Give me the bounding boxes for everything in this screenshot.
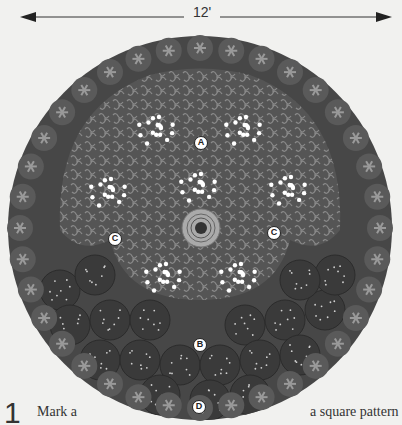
border-flower: [364, 246, 390, 272]
border-flower: [125, 46, 151, 72]
border-flower: [364, 184, 390, 210]
garden-circle: [7, 35, 393, 421]
border-flower: [356, 153, 382, 179]
shrub-mound: [240, 340, 280, 380]
border-flower: [7, 215, 33, 241]
shrub-mound: [280, 260, 320, 300]
border-flower: [97, 371, 123, 397]
border-flower: [49, 331, 75, 357]
step-number: 1: [4, 398, 21, 425]
shrub-mound: [75, 255, 115, 295]
garden-plan: [0, 0, 402, 425]
border-flower: [325, 99, 351, 125]
border-flower: [303, 77, 329, 103]
border-flower: [249, 384, 275, 410]
marker-c-right: C: [267, 226, 281, 240]
shrub-mound: [315, 255, 355, 295]
border-flower: [10, 184, 36, 210]
border-flower: [277, 371, 303, 397]
center-fountain: [182, 209, 220, 247]
border-flower: [49, 99, 75, 125]
marker-c-left: C: [108, 232, 122, 246]
border-flower: [325, 331, 351, 357]
border-flower: [97, 59, 123, 85]
border-flower: [277, 59, 303, 85]
border-flower: [71, 77, 97, 103]
border-flower: [18, 277, 44, 303]
border-flower: [125, 384, 151, 410]
step-text-left: Mark a: [37, 404, 77, 420]
marker-b: B: [193, 338, 207, 352]
marker-d: D: [192, 400, 206, 414]
border-flower: [218, 392, 244, 418]
border-flower: [18, 153, 44, 179]
border-flower: [367, 215, 393, 241]
border-flower: [31, 125, 57, 151]
step-text-right: a square pattern: [310, 404, 399, 420]
border-flower: [303, 353, 329, 379]
border-flower: [31, 305, 57, 331]
shrub-mound: [130, 300, 170, 340]
border-flower: [249, 46, 275, 72]
marker-a: A: [194, 136, 208, 150]
border-flower: [187, 35, 213, 61]
border-flower: [356, 277, 382, 303]
border-flower: [10, 246, 36, 272]
border-flower: [71, 353, 97, 379]
border-flower: [156, 392, 182, 418]
shrub-mound: [90, 300, 130, 340]
border-flower: [156, 38, 182, 64]
border-flower: [343, 305, 369, 331]
border-flower: [218, 38, 244, 64]
shrub-mound: [120, 340, 160, 380]
shrub-mound: [200, 345, 240, 385]
border-flower: [343, 125, 369, 151]
shrub-mound: [265, 300, 305, 340]
shrub-mound: [40, 270, 80, 310]
shrub-mound: [225, 305, 265, 345]
